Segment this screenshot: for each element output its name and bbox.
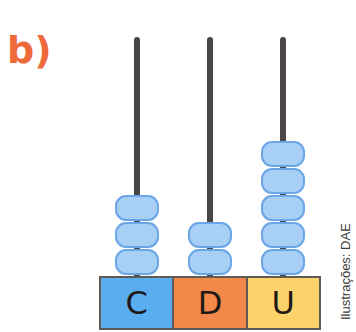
- abacus-base: CDU: [99, 276, 321, 330]
- bead-c: [115, 195, 159, 221]
- bead-u: [261, 141, 305, 167]
- place-value-d: D: [172, 278, 245, 328]
- bead-d: [188, 222, 232, 248]
- bead-d: [188, 249, 232, 275]
- bead-u: [261, 249, 305, 275]
- place-value-u: U: [246, 278, 319, 328]
- bead-u: [261, 222, 305, 248]
- bead-u: [261, 195, 305, 221]
- bead-c: [115, 249, 159, 275]
- exercise-label: b): [7, 28, 52, 72]
- bead-u: [261, 168, 305, 194]
- image-credit: Ilustrações: DAE: [338, 223, 353, 320]
- place-value-c: C: [101, 278, 172, 328]
- bead-c: [115, 222, 159, 248]
